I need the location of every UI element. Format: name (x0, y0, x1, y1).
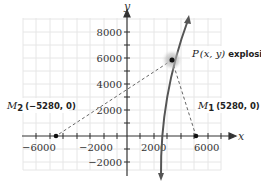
hyperbola-diagram: x y −6000 −2000 2000 6000 8000 6000 4000… (0, 0, 261, 184)
label-m1: M1(5280, 0) (196, 98, 260, 113)
x-tick-label: −6000 (22, 142, 56, 153)
y-tick-label: −2000 (88, 157, 122, 168)
y-axis-label: y (123, 0, 131, 13)
x-tick-label: 6000 (194, 142, 219, 153)
point-p (170, 58, 175, 63)
label-p-coords: (x, y) (200, 48, 226, 59)
x-tick-label: −2000 (79, 142, 113, 153)
label-p: P(x, y)explosion (190, 46, 261, 60)
label-p-note: explosion (228, 49, 261, 59)
x-axis-arrow-icon (229, 133, 236, 139)
y-tick-label: 4000 (97, 79, 122, 90)
y-tick-label: 6000 (97, 53, 122, 64)
point-m1 (194, 134, 199, 139)
curve-arrow-down-icon (158, 173, 164, 181)
label-m2: M2(−5280, 0) (5, 98, 76, 113)
y-tick-label: 8000 (97, 27, 122, 38)
label-p-name: P (191, 48, 199, 59)
x-axis-label: x (238, 130, 245, 143)
point-m2 (54, 134, 59, 139)
